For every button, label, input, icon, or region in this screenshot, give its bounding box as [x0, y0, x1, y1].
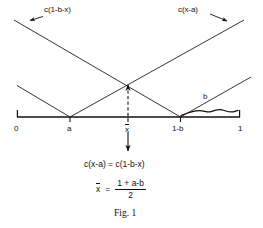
brace-label-b: b [203, 92, 207, 101]
curve-label-right: c(x-a) [178, 5, 198, 14]
fraction-denominator: 2 [126, 190, 135, 200]
equation-solution: x = 1 + a-b 2 [96, 179, 146, 200]
brace-b-wavy [181, 109, 238, 115]
figure-caption: Fig. 1 [114, 208, 136, 218]
line-branch-left [17, 86, 70, 118]
axis-label-1: 1 [238, 124, 242, 133]
leader-arrow-right [210, 14, 227, 21]
curve-label-left: c(1-b-x) [44, 5, 71, 14]
equation-fraction: 1 + a-b 2 [115, 179, 146, 200]
figure-container: c(1-b-x) c(x-a) b 0 a x 1-b 1 c(x-a) = c… [0, 0, 263, 228]
line-c-1-b-x [14, 20, 181, 117]
axis-label-xbar-text: x [125, 125, 129, 134]
axis-label-xbar: x [125, 125, 129, 134]
line-c-x-a [70, 20, 244, 117]
equation-equals-sign: = [105, 184, 110, 194]
axis-label-a: a [67, 124, 71, 133]
line-branch-right [181, 77, 252, 117]
fraction-numerator: 1 + a-b [115, 179, 146, 189]
axis-label-1-minus-b: 1-b [172, 124, 183, 133]
leader-arrow-left [30, 17, 43, 21]
axis-label-0: 0 [14, 124, 18, 133]
equation-solution-row: x = 1 + a-b 2 [96, 179, 146, 200]
equation-condition: c(x-a) = c(1-b-x) [84, 159, 145, 169]
equation-lhs-xbar: x [96, 184, 100, 194]
